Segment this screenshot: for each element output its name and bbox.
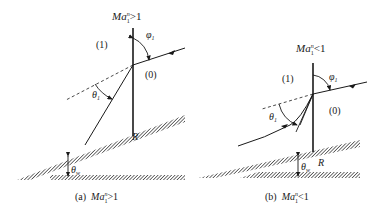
panel-a-phi-arc xyxy=(133,38,149,60)
oblique-shock-diagram: Man1>1 φ1 θ1 (1) (0) R θw xyxy=(0,0,372,213)
panel-a-theta1-label: θ1 xyxy=(92,89,100,101)
panel-a-region-upstream: (1) xyxy=(96,39,108,51)
panel-b-theta1-label: θ1 xyxy=(269,111,277,123)
panel-b: Man1<1 φ1 θ1 (1) (0) xyxy=(198,42,367,204)
panel-b-caption: (b)Man1<1 xyxy=(265,191,309,204)
panel-a-condition-label: Man1>1 xyxy=(111,10,141,24)
panel-a-phi-label: φ1 xyxy=(146,29,155,41)
panel-b-wedge-base xyxy=(240,172,360,178)
panel-a-incident-ray xyxy=(133,48,185,65)
panel-b-region-downstream: (0) xyxy=(329,105,341,117)
panel-b-phi-arc xyxy=(313,75,330,90)
panel-b-condition-label: Man1<1 xyxy=(295,42,325,56)
panel-a: Man1>1 φ1 θ1 (1) (0) R θw xyxy=(17,10,185,204)
panel-b-point-r: R xyxy=(317,157,324,168)
panel-a-reflected-ray xyxy=(85,65,133,145)
panel-b-incident-arrow-icon xyxy=(349,84,356,89)
panel-b-wedge-angle-label: θw xyxy=(301,161,310,173)
panel-a-wedge-ramp xyxy=(17,115,185,180)
panel-a-wedge-base xyxy=(50,175,185,180)
panel-a-wedge-angle-label: θw xyxy=(71,164,80,176)
panel-a-caption: (a)Man1>1 xyxy=(75,191,118,204)
panel-b-incident-ray xyxy=(313,82,367,94)
panel-a-incident-arrow-icon xyxy=(168,50,175,55)
panel-b-region-upstream: (1) xyxy=(282,73,294,85)
panel-b-dashed-extension xyxy=(262,94,313,109)
panel-b-phi-label: φ1 xyxy=(329,71,338,83)
panel-a-region-downstream: (0) xyxy=(145,69,157,81)
panel-a-point-r: R xyxy=(131,131,138,142)
